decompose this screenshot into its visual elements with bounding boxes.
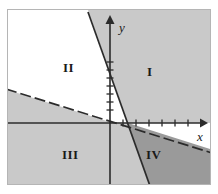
region-label-I: I bbox=[147, 65, 153, 78]
figure-canvas bbox=[0, 0, 218, 194]
y-axis-label: y bbox=[119, 21, 125, 34]
x-axis-label: x bbox=[197, 130, 203, 143]
region-label-III: III bbox=[62, 148, 79, 161]
quadrant-region-figure: I II III IV x y bbox=[0, 0, 218, 194]
region-label-II: II bbox=[63, 61, 74, 74]
region-label-IV: IV bbox=[146, 148, 161, 161]
